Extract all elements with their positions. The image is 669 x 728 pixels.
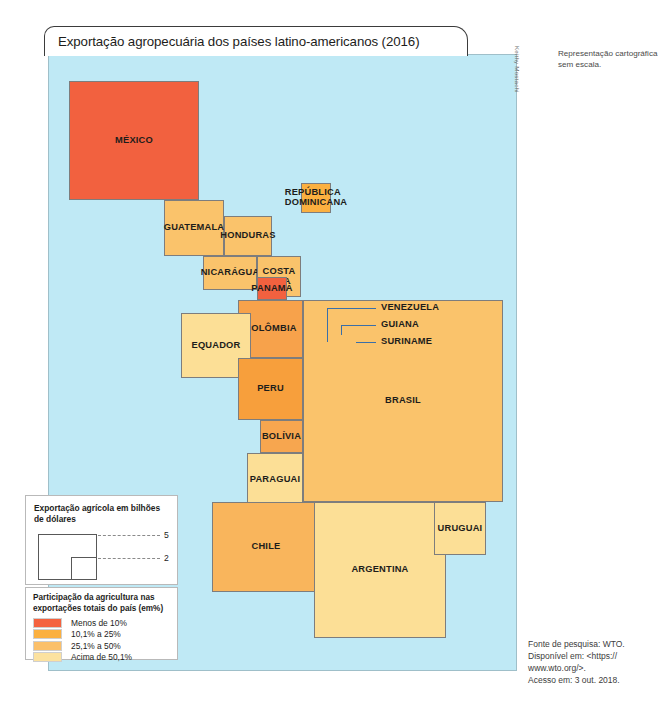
size-legend-leader-small (98, 558, 160, 559)
size-legend: Exportação agrícola em bilhões de dólare… (25, 495, 178, 585)
leader-line-horizontal-venezuela (327, 308, 376, 309)
country-label-chile: CHILE (252, 542, 281, 552)
country-block-nicaragua[interactable]: NICARÁGUA (203, 256, 257, 290)
color-legend: Participação da agricultura nas exportaç… (25, 587, 178, 660)
source-line-2: Disponível em: <https:// (528, 650, 666, 662)
legend-label-1: 10,1% a 25% (71, 629, 121, 639)
size-legend-title: Exportação agrícola em bilhões de dólare… (34, 503, 172, 526)
country-label-mexico: MÉXICO (115, 136, 153, 146)
legend-swatch-0 (33, 618, 62, 628)
map-title-tab: Exportação agropecuária dos países latin… (44, 26, 468, 56)
country-block-guatemala[interactable]: GUATEMALA (164, 200, 224, 256)
size-legend-value-small: 2 (164, 553, 169, 563)
country-label-peru: PERU (257, 384, 284, 394)
legend-swatch-1 (33, 629, 62, 639)
country-label-brasil: BRASIL (385, 396, 421, 406)
country-label-suriname: SURINAME (381, 337, 432, 347)
illustrator-credit: Keithy Mostachi (514, 46, 521, 126)
page-title: Exportação agropecuária dos países latin… (58, 34, 419, 49)
country-block-chile[interactable]: CHILE (212, 502, 320, 592)
leader-line-vertical-guiana (341, 325, 342, 335)
country-block-honduras[interactable]: HONDURAS (224, 216, 272, 256)
color-legend-swatches: Menos de 10%10,1% a 25%25,1% a 50%Acima … (33, 617, 178, 663)
country-block-brasil[interactable]: BRASIL (303, 300, 503, 502)
source-line-4: Acesso em: 3 out. 2018. (528, 674, 666, 686)
leader-line-horizontal-suriname (356, 342, 376, 343)
leader-line-vertical-venezuela (327, 308, 328, 342)
country-label-paraguai: PARAGUAI (250, 475, 301, 485)
legend-row-3: Acima de 50,1% (33, 652, 178, 663)
country-label-guatemala: GUATEMALA (164, 223, 225, 233)
country-label-republica-dominicana: REPÚBLICA DOMINICANA (285, 188, 347, 208)
legend-swatch-2 (33, 641, 62, 651)
legend-row-1: 10,1% a 25% (33, 629, 178, 640)
scale-note: Representação cartográfica sem escala. (558, 49, 658, 71)
legend-swatch-3 (33, 652, 62, 662)
legend-label-3: Acima de 50,1% (71, 652, 132, 662)
source-citation: Fonte de pesquisa: WTO. Disponível em: <… (528, 638, 666, 686)
legend-label-2: 25,1% a 50% (71, 641, 121, 651)
country-block-mexico[interactable]: MÉXICO (69, 81, 199, 200)
size-legend-value-large: 5 (164, 530, 169, 540)
size-legend-square-small (71, 557, 97, 580)
leader-line-horizontal-guiana (341, 325, 376, 326)
country-block-peru[interactable]: PERU (238, 358, 303, 420)
country-label-nicaragua: NICARÁGUA (201, 268, 260, 278)
source-line-3: www.wto.org/>. (528, 662, 666, 674)
country-label-equador: EQUADOR (192, 341, 241, 351)
country-label-bolivia: BOLÍVIA (262, 432, 301, 442)
country-block-argentina[interactable]: ARGENTINA (314, 502, 446, 638)
legend-row-2: 25,1% a 50% (33, 640, 178, 651)
source-line-1: Fonte de pesquisa: WTO. (528, 638, 666, 650)
legend-label-0: Menos de 10% (71, 618, 127, 628)
country-label-venezuela: VENEZUELA (381, 303, 439, 313)
country-label-panama: PANAMÁ (251, 284, 292, 294)
country-label-colombia: COLÔMBIA (244, 324, 296, 334)
country-label-guiana: GUIANA (381, 320, 419, 330)
country-label-uruguai: URUGUAI (438, 524, 483, 534)
size-legend-leader-large (98, 535, 160, 536)
color-legend-title: Participação da agricultura nas exportaç… (33, 593, 177, 614)
country-label-honduras: HONDURAS (220, 231, 275, 241)
country-label-argentina: ARGENTINA (351, 565, 408, 575)
legend-row-0: Menos de 10% (33, 617, 178, 628)
